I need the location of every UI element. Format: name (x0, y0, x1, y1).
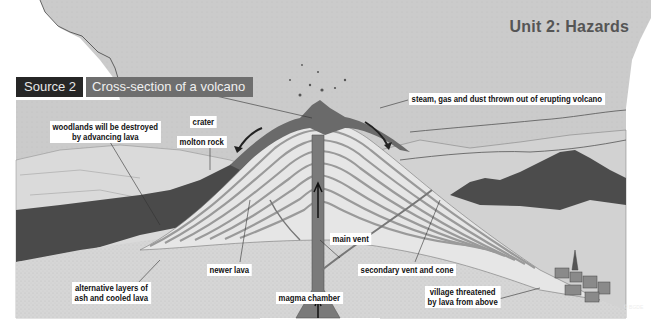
label-newer-lava: newer lava (207, 264, 252, 276)
label-woodlands-line1: woodlands will be destroyed (53, 122, 158, 132)
source-title: Cross-section of a volcano (86, 77, 253, 97)
label-secondary-vent: secondary vent and cone (358, 264, 456, 276)
image-credit: © BGDE (624, 304, 643, 310)
label-steam-gas-dust: steam, gas and dust thrown out of erupti… (409, 93, 605, 105)
source-number-tag: Source 2 (16, 77, 83, 97)
label-magma-chamber: magma chamber (276, 292, 343, 304)
label-woodlands-line2: by advancing lava (53, 132, 158, 142)
unit-title: Unit 2: Hazards (510, 18, 629, 36)
label-village-line1: village threatened (428, 287, 498, 297)
label-village-line2: by lava from above (428, 297, 498, 307)
label-woodlands: woodlands will be destroyed by advancing… (50, 121, 161, 143)
volcano-cross-section-illustration (0, 0, 651, 328)
label-crater: crater (190, 116, 217, 128)
label-ash-layers-line2: ash and cooled lava (75, 293, 149, 303)
source-header: Source 2 Cross-section of a volcano (16, 77, 253, 97)
label-village: village threatened by lava from above (425, 286, 500, 308)
label-molten-rock: molton rock (177, 136, 226, 148)
label-ash-layers: alternative layers of ash and cooled lav… (72, 282, 151, 304)
label-main-vent: main vent (330, 233, 371, 245)
label-ash-layers-line1: alternative layers of (75, 283, 149, 293)
